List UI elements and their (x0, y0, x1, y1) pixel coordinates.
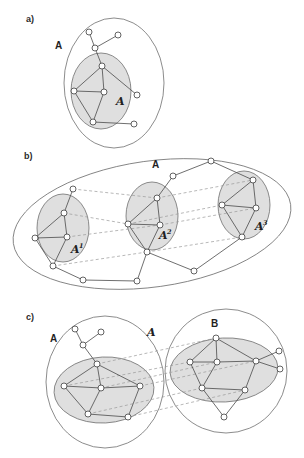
graph-node (64, 234, 70, 240)
graph-node (90, 119, 96, 125)
graph-node (253, 205, 259, 211)
script-superscript-b-3: 3 (263, 219, 268, 227)
graph-node (157, 222, 163, 228)
graph-node (131, 121, 137, 127)
graph-node (101, 89, 107, 95)
graph-node (242, 387, 248, 393)
inner-region-b-1 (126, 182, 178, 250)
graph-node (221, 414, 227, 420)
graph-node (92, 45, 98, 51)
graph-node (94, 361, 100, 367)
graph-node (125, 414, 131, 420)
graph-node (214, 359, 220, 365)
graph-node (80, 342, 86, 348)
mapping-label-c: A (146, 326, 156, 339)
set-label-c-outer: A (50, 333, 57, 344)
panel-c: c)ABA (26, 309, 287, 448)
graph-node (99, 63, 105, 69)
script-label-a-0: A (0, 0, 9, 3)
graph-node (50, 263, 56, 269)
graph-node (277, 366, 283, 372)
graph-node (71, 88, 77, 94)
graph-node (253, 358, 259, 364)
graph-node (86, 29, 92, 35)
graph-node (32, 235, 38, 241)
script-superscript-b-2: 2 (166, 228, 172, 236)
graph-node (250, 177, 256, 183)
graph-node (61, 383, 67, 389)
graph-node (70, 186, 76, 192)
graph-node (219, 202, 225, 208)
set-label-c-outer-b: B (211, 318, 218, 329)
graph-node (187, 359, 193, 365)
graph-node (125, 221, 131, 227)
graph-node (134, 278, 140, 284)
graph-node (98, 385, 104, 391)
graph-node (199, 385, 205, 391)
graph-node (191, 268, 197, 274)
inner-region-b-0 (37, 194, 89, 262)
graph-node (85, 411, 91, 417)
graph-node (61, 210, 67, 216)
panel-label-b: b) (24, 151, 33, 161)
script-superscript-b-1: 1 (79, 242, 84, 250)
graph-node (170, 173, 176, 179)
graph-node (154, 195, 160, 201)
graph-node (213, 335, 219, 341)
graph-node (72, 326, 78, 332)
graph-node (137, 383, 143, 389)
script-label-a: A (115, 95, 125, 108)
graph-node (276, 348, 282, 354)
graph-node (98, 329, 104, 335)
graph-node (144, 249, 150, 255)
panel-label-c: c) (26, 312, 34, 322)
graph-node (115, 32, 121, 38)
panel-b: b)AA1A2A3 (5, 142, 300, 306)
graph-node (80, 277, 86, 283)
graph-node (239, 234, 245, 240)
figure-root: a)AAAb)AA1A2A3c)ABA (0, 0, 304, 458)
graph-node (134, 92, 140, 98)
set-label-b-outer: A (152, 159, 159, 170)
set-label-a-outer: A (55, 40, 62, 51)
figure-canvas: a)AAAb)AA1A2A3c)ABA (0, 0, 304, 458)
graph-node (208, 158, 214, 164)
panel-label-a: a) (26, 14, 34, 24)
panel-a: a)AAA (0, 0, 164, 148)
